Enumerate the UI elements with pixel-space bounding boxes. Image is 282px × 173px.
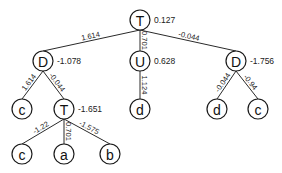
node-value: 0.628 [154,56,176,66]
edge-weight-label: -0.044 [213,71,232,94]
node-label: c [19,147,26,163]
tree-node: c [12,144,32,164]
node-label: a [60,147,68,163]
node-label: T [136,13,145,29]
tree-node: d [207,99,227,119]
tree-node: D-1.078 [33,51,81,71]
edge-weight-label: 1.614 [80,30,100,43]
tree-diagram: 1.6140.701-0.0441.614-0.0441.124-0.044-0… [0,0,282,173]
edge-weight-label: 1.124 [140,76,149,95]
node-value: -1.078 [57,56,81,66]
tree-node: c [248,99,268,119]
node-value: -1.756 [250,56,274,66]
node-value: 0.127 [154,15,176,25]
edge-weight-label: -1.575 [78,119,101,137]
edge-weight-label: 0.701 [64,122,73,141]
node-label: c [255,102,262,118]
edge-weight-label: 0.701 [140,31,149,50]
tree-node: a [54,144,74,164]
tree-node: D-1.756 [226,51,274,71]
node-label: d [136,102,144,118]
tree-node: U0.628 [130,51,176,71]
node-label: T [60,102,69,118]
edge-weight-label: 1.614 [20,72,38,92]
tree-node: b [100,144,120,164]
node-label: b [106,147,114,163]
tree-node: d [130,99,150,119]
node-label: D [231,54,241,70]
edges-layer: 1.6140.701-0.0441.614-0.0441.124-0.044-0… [20,29,260,144]
tree-node: T-1.651 [54,99,102,119]
tree-node: c [12,99,32,119]
tree-node: T0.127 [130,10,176,30]
node-label: U [135,54,145,70]
node-label: c [19,102,26,118]
node-label: d [213,102,221,118]
node-value: -1.651 [78,104,102,114]
node-label: D [38,54,48,70]
